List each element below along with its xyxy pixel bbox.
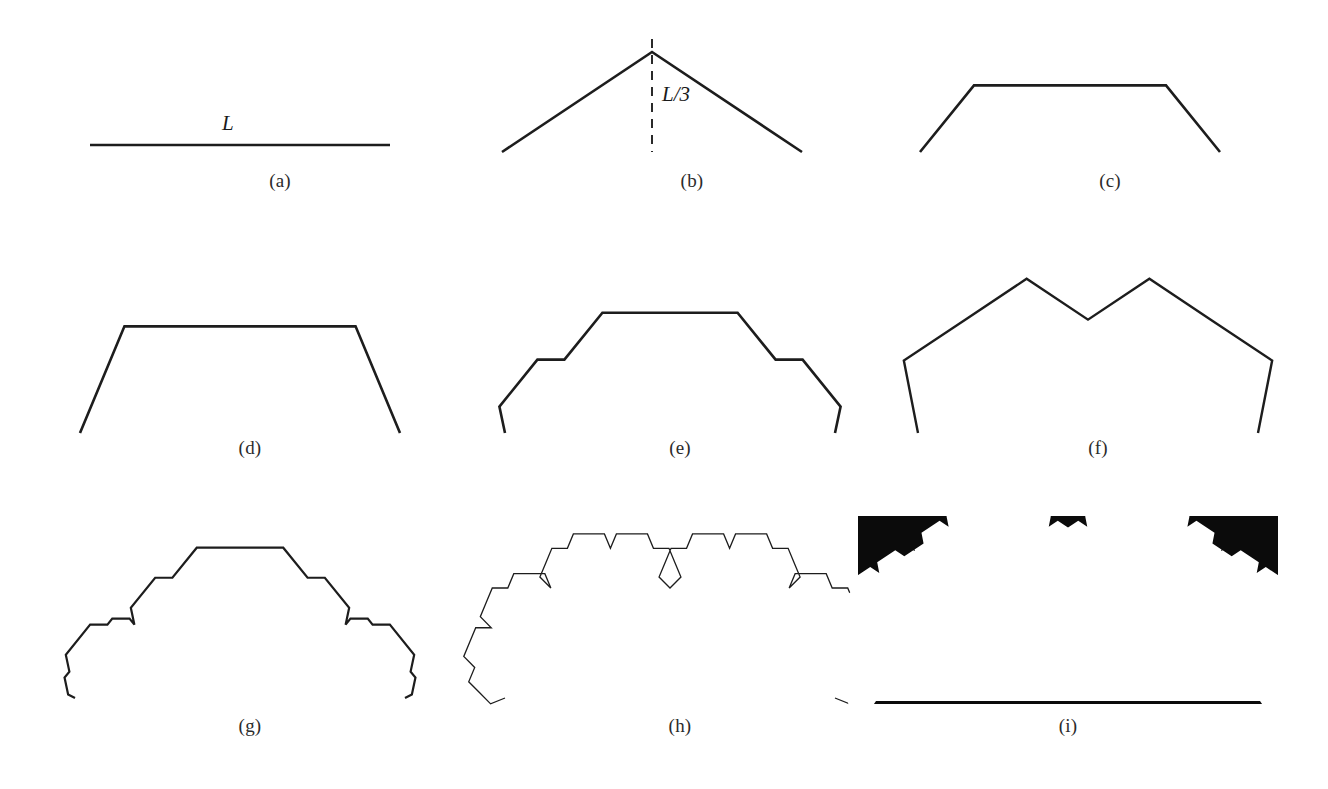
curve-path-h [464, 534, 876, 704]
panel-caption-e: (e) [470, 437, 890, 459]
fractal-curve-c [900, 22, 1320, 172]
curve-path-d [80, 326, 400, 433]
fractal-curve-a [70, 35, 490, 185]
panel-caption-f: (f) [888, 437, 1308, 459]
fractal-curve-e [470, 248, 890, 448]
fractal-curve-h [470, 508, 890, 718]
fractal-curve-i [858, 516, 1278, 716]
fractal-curve-g [40, 508, 460, 718]
curve-path-g [65, 548, 416, 698]
fractal-curve-b [482, 22, 902, 172]
curve-path-f [904, 279, 1272, 433]
curve-path-e [499, 313, 840, 433]
panel-i: (i) [858, 516, 1278, 749]
fractal-curve-f [888, 248, 1308, 448]
panel-caption-g: (g) [40, 715, 460, 737]
panel-d: (d) [40, 248, 460, 471]
panel-caption-d: (d) [40, 437, 460, 459]
panel-caption-b: (b) [482, 170, 902, 192]
length-label-L-over-3: L/3 [662, 82, 690, 107]
panel-c: (c) [900, 22, 1320, 204]
panel-h: (h) [470, 508, 890, 749]
length-label-L: L [222, 111, 234, 136]
fractal-curve-d [40, 248, 460, 448]
panel-caption-c: (c) [900, 170, 1320, 192]
panel-f: (f) [888, 248, 1308, 471]
panel-caption-i: (i) [858, 715, 1278, 737]
panel-caption-a: (a) [70, 170, 490, 192]
curve-path-c [920, 85, 1220, 152]
figure-root: L(a)L/3(b)(c)(d)(e)(f)(g)(h)(i) [0, 0, 1328, 789]
panel-b: L/3(b) [482, 22, 902, 204]
panel-g: (g) [40, 508, 460, 749]
panel-a: L(a) [70, 35, 490, 204]
panel-caption-h: (h) [470, 715, 890, 737]
panel-e: (e) [470, 248, 890, 471]
